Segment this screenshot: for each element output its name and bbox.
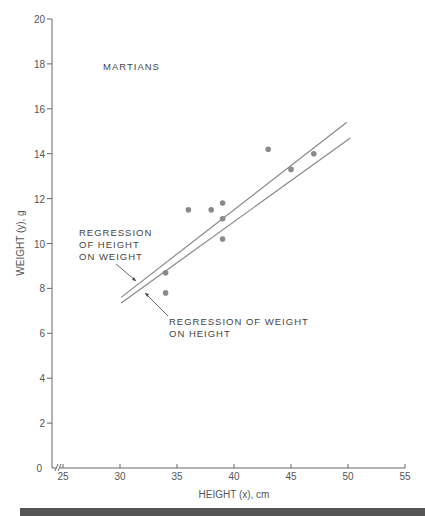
y-tick-label: 16: [34, 104, 46, 115]
annotation-line: ON WEIGHT: [79, 251, 143, 262]
page-edge-bar: [20, 508, 425, 516]
y-tick-label: 12: [34, 194, 46, 205]
y-tick-label: 6: [39, 328, 45, 339]
data-point: [220, 216, 226, 222]
regression-lines: [121, 122, 350, 303]
x-tick-label: 55: [399, 471, 411, 482]
y-tick-label: 0: [36, 463, 42, 474]
x-axis-title: HEIGHT (x), cm: [199, 489, 270, 500]
y-tick-label: 2: [39, 418, 45, 429]
y-axis: 02468101214161820: [34, 14, 52, 474]
data-point: [288, 167, 294, 173]
x-tick-label: 45: [285, 471, 297, 482]
annotation-line: REGRESSION OF WEIGHT: [169, 316, 309, 327]
y-tick-label: 4: [39, 373, 45, 384]
regression-line-weight-on-height: [121, 138, 350, 303]
regression-line-height-on-weight: [121, 122, 347, 297]
data-points: [163, 146, 317, 295]
annotation-weight-on-height: REGRESSION OF WEIGHT ON HEIGHT: [145, 293, 309, 339]
chart: MARTIANS 02468101214161820 2530354045505…: [0, 0, 425, 516]
data-point: [163, 270, 169, 276]
y-axis-title: WEIGHT (y), g: [15, 210, 26, 275]
annotation-line: REGRESSION: [79, 227, 152, 238]
y-tick-label: 14: [34, 149, 46, 160]
chart-title: MARTIANS: [103, 61, 160, 72]
annotation-arrow: [116, 264, 136, 281]
x-tick-label: 35: [171, 471, 183, 482]
y-tick-label: 8: [39, 283, 45, 294]
x-tick-label: 25: [57, 471, 69, 482]
y-tick-label: 20: [34, 14, 46, 25]
annotation-line: ON HEIGHT: [169, 328, 231, 339]
data-point: [265, 146, 271, 152]
y-tick-label: 10: [34, 239, 46, 250]
data-point: [311, 151, 317, 157]
annotation-line: OF HEIGHT: [79, 239, 140, 250]
annotation-arrow: [145, 293, 168, 316]
annotation-height-on-weight: REGRESSION OF HEIGHT ON WEIGHT: [79, 227, 152, 281]
x-tick-label: 40: [228, 471, 240, 482]
y-tick-label: 18: [34, 59, 46, 70]
data-point: [220, 236, 226, 242]
data-point: [208, 207, 214, 213]
data-point: [163, 290, 169, 296]
data-point: [220, 200, 226, 206]
x-axis: 25303540455055: [52, 464, 411, 482]
x-tick-label: 50: [342, 471, 354, 482]
x-tick-label: 30: [114, 471, 126, 482]
data-point: [186, 207, 192, 213]
